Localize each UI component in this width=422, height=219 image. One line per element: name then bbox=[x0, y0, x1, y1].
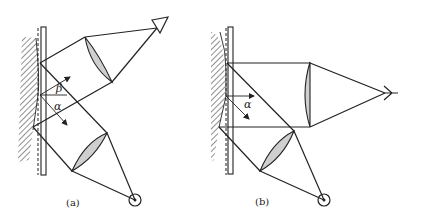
caption-b: (b) bbox=[255, 196, 269, 207]
angle-alpha-label: α bbox=[244, 98, 252, 111]
panel-b: α (b) bbox=[211, 27, 398, 207]
eye-icon bbox=[384, 86, 398, 100]
angle-alpha-label: α bbox=[54, 100, 62, 113]
lower-lens bbox=[260, 131, 294, 171]
angle-beta-label: β bbox=[55, 82, 62, 95]
hatched-surface bbox=[211, 32, 226, 162]
right-lens bbox=[305, 62, 310, 127]
upper-lens bbox=[85, 37, 112, 82]
lower-lens bbox=[72, 133, 107, 171]
caption-a: (a) bbox=[66, 197, 80, 208]
panel-a: β α (a) bbox=[18, 17, 168, 208]
optical-diagram: β α (a) α (b) bbox=[0, 0, 422, 219]
hatched-surface bbox=[18, 37, 39, 162]
